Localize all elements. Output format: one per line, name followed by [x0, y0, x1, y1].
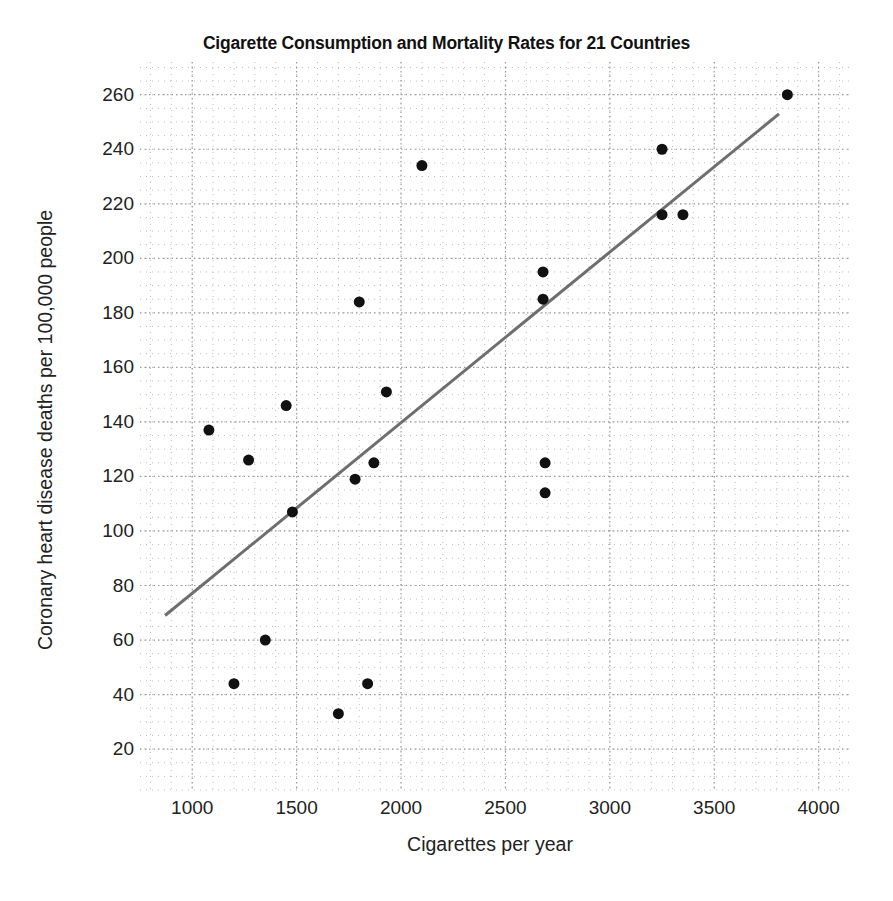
x-axis-tick-label: 3000	[560, 797, 660, 819]
data-point	[228, 678, 239, 689]
y-axis-tick-label: 80	[64, 575, 134, 597]
chart-figure: Cigarette Consumption and Mortality Rate…	[0, 0, 893, 901]
x-axis-tick-label: 2000	[351, 797, 451, 819]
data-point	[350, 474, 361, 485]
data-point	[362, 678, 373, 689]
x-axis-tick-label: 2500	[455, 797, 555, 819]
y-axis-tick-label: 120	[64, 465, 134, 487]
x-axis-tick-label: 4000	[769, 797, 869, 819]
y-axis-tick-label: 260	[64, 84, 134, 106]
data-point	[281, 400, 292, 411]
data-point	[538, 266, 549, 277]
chart-title: Cigarette Consumption and Mortality Rate…	[0, 33, 893, 54]
data-point	[243, 455, 254, 466]
y-axis-tick-label: 220	[64, 193, 134, 215]
data-point	[416, 160, 427, 171]
x-axis-title: Cigarettes per year	[130, 833, 850, 856]
y-axis-tick-label: 200	[64, 247, 134, 269]
y-axis-tick-label: 140	[64, 411, 134, 433]
y-axis-tick-labels: 20406080100120140160180200220240260	[58, 62, 134, 790]
data-point	[782, 89, 793, 100]
data-point	[354, 296, 365, 307]
data-point	[540, 457, 551, 468]
x-axis-tick-labels: 1000150020002500300035004000	[140, 797, 850, 827]
y-axis-tick-label: 100	[64, 520, 134, 542]
y-axis-tick-label: 160	[64, 356, 134, 378]
data-point	[677, 209, 688, 220]
data-point	[260, 635, 271, 646]
data-point	[203, 425, 214, 436]
y-axis-tick-label: 40	[64, 684, 134, 706]
data-layer	[140, 62, 850, 790]
y-axis-tick-label: 20	[64, 738, 134, 760]
data-point	[538, 294, 549, 305]
y-axis-tick-label: 60	[64, 629, 134, 651]
y-axis-title-container: Coronary heart disease deaths per 100,00…	[30, 70, 60, 790]
data-point	[287, 506, 298, 517]
data-point	[381, 386, 392, 397]
data-point	[368, 457, 379, 468]
data-point	[657, 144, 668, 155]
x-axis-tick-label: 1500	[247, 797, 347, 819]
x-axis-tick-label: 3500	[664, 797, 764, 819]
data-point	[657, 209, 668, 220]
data-point	[333, 708, 344, 719]
data-point	[540, 487, 551, 498]
y-axis-title: Coronary heart disease deaths per 100,00…	[34, 210, 57, 650]
x-axis-tick-label: 1000	[142, 797, 242, 819]
plot-area	[140, 62, 850, 790]
y-axis-tick-label: 240	[64, 138, 134, 160]
y-axis-tick-label: 180	[64, 302, 134, 324]
